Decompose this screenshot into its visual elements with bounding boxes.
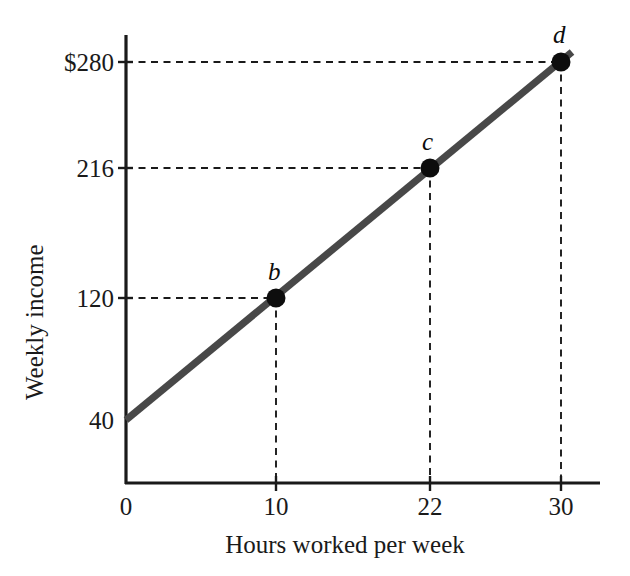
point-label-d: d [553, 22, 566, 47]
y-tick-label-280: $280 [58, 50, 114, 75]
x-tick-label-0: 0 [106, 494, 146, 519]
data-point-d [552, 53, 571, 72]
x-tick-label-10: 10 [256, 494, 296, 519]
data-point-b [267, 289, 286, 308]
income-line-chart: $280 216 120 40 0 10 22 30 b c d Hours w… [0, 0, 630, 576]
y-tick-label-40: 40 [58, 408, 114, 433]
x-tick-label-30: 30 [541, 494, 581, 519]
x-axis-title: Hours worked per week [185, 532, 505, 557]
x-tick-label-22: 22 [410, 494, 450, 519]
point-label-b: b [268, 259, 281, 284]
y-axis-title: Weekly income [22, 244, 47, 400]
y-tick-label-120: 120 [58, 286, 114, 311]
point-label-c: c [422, 129, 433, 154]
data-point-c [421, 159, 440, 178]
y-tick-label-216: 216 [58, 156, 114, 181]
income-line [126, 52, 572, 420]
